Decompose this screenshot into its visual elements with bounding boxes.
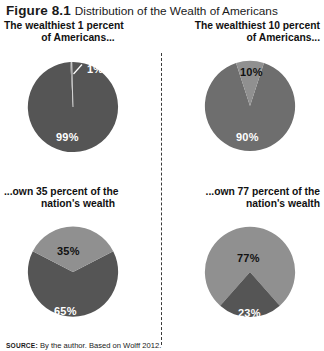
pie-1-label-1-percent: 1% [87, 63, 103, 75]
pie-4-label-23-percent: 23% [238, 307, 261, 319]
caption-bottom-right: ...own 77 percent of the nation's wealth [170, 186, 320, 211]
caption-top-right-line2: of Americans... [170, 32, 320, 44]
figure-title: Figure 8.1Distribution of the Wealth of … [6, 1, 320, 17]
pie-2-label-90-percent: 90% [236, 131, 259, 143]
figure-title-text: Distribution of the Wealth of Americans [71, 4, 278, 18]
caption-top-left: The wealthiest 1 percent of Americans... [4, 20, 152, 45]
caption-top-left-line2: of Americans... [4, 32, 152, 44]
caption-top-right: The wealthiest 10 percent of Americans..… [170, 20, 320, 45]
caption-bottom-right-line2: nation's wealth [170, 198, 320, 210]
caption-bottom-left-line1: ...own 35 percent of the [4, 186, 152, 198]
caption-top-right-line1: The wealthiest 10 percent [170, 20, 320, 32]
source-label: SOURCE: [6, 342, 38, 349]
pie-3-label-35-percent: 35% [57, 245, 80, 257]
pie-4-label-77-percent: 77% [237, 252, 260, 264]
source-note: SOURCE: By the author. Based on Wolff 20… [6, 341, 161, 350]
pie-3-label-65-percent: 65% [54, 305, 77, 317]
pie-2-label-10-percent: 10% [240, 66, 263, 78]
caption-bottom-left-line2: nation's wealth [4, 198, 152, 210]
caption-top-left-line1: The wealthiest 1 percent [4, 20, 152, 32]
vertical-dashed-divider [161, 53, 162, 345]
pie-chart-wealth-share-10-percent [203, 225, 297, 319]
callout-leader-line-1-percent [72, 63, 88, 75]
source-text: By the author. Based on Wolff 2012. [40, 341, 161, 350]
caption-bottom-left: ...own 35 percent of the nation's wealth [4, 186, 152, 211]
pie-4-svg [203, 225, 297, 319]
figure-number: Figure 8.1 [6, 3, 71, 18]
caption-bottom-right-line1: ...own 77 percent of the [170, 186, 320, 198]
pie-1-label-99-percent: 99% [56, 131, 79, 143]
